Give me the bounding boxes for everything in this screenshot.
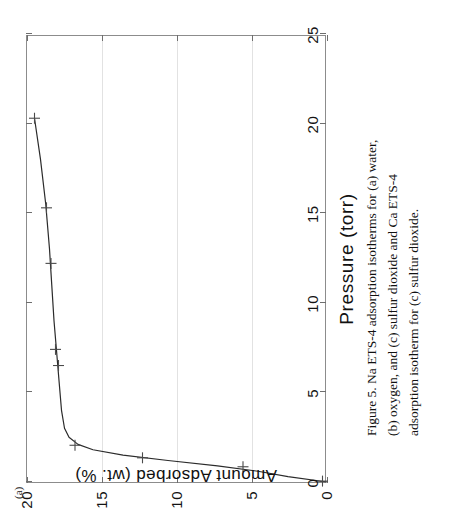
x-tick-label-5: 5 (304, 389, 321, 398)
x-tick-label-10: 10 (304, 295, 321, 313)
y-tick-0 (327, 35, 328, 41)
x-tick-label-20: 20 (304, 116, 321, 134)
x-tick-label-25: 25 (304, 26, 321, 44)
data-point-marker (50, 344, 61, 355)
data-point-marker (53, 360, 64, 371)
y-tick-label-10: 10 (168, 491, 185, 509)
y-tick-0 (327, 477, 328, 483)
data-point-marker (46, 258, 57, 269)
data-point-marker (70, 440, 81, 451)
y-tick-label-15: 15 (93, 491, 110, 509)
data-point-marker (41, 202, 52, 213)
y-axis-title: Amount Adsorbed (wt. %) (26, 465, 326, 485)
data-point-marker (137, 452, 148, 463)
data-series-layer (27, 34, 327, 482)
y-tick-label-5: 5 (243, 491, 260, 500)
plot-frame (26, 35, 326, 483)
y-tick-label-0: 0 (318, 491, 335, 500)
x-axis-title: Pressure (torr) (336, 35, 358, 483)
figure-caption-block: Figure 5. Na ETS-4 adsorption isotherms … (362, 0, 458, 136)
isotherm-fit-curve (35, 118, 328, 482)
y-tick-label-20: 20 (18, 491, 35, 509)
x-tick-label-15: 15 (304, 205, 321, 223)
data-point-marker (29, 113, 40, 124)
figure-caption: Figure 5. Na ETS-4 adsorption isotherms … (362, 136, 425, 436)
